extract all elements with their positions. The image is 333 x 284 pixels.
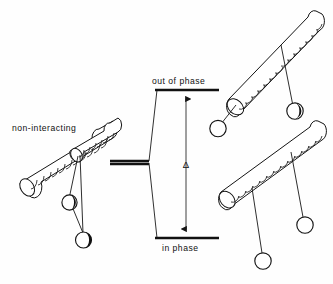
correlation-line-upper [149, 90, 157, 161]
label-non-interacting: non-interacting [12, 123, 76, 133]
sphere-icon [76, 232, 92, 248]
energy-splitting-diagram: non-interacting Δ out of phase in phase [0, 0, 333, 284]
sphere-icon [297, 217, 313, 233]
label-out-of-phase: out of phase [152, 76, 205, 86]
structure-out-of-phase [210, 11, 325, 137]
label-in-phase: in phase [162, 243, 199, 253]
structure-in-phase [216, 121, 326, 270]
energy-level-diagram: Δ out of phase in phase [110, 76, 219, 253]
figure-root: non-interacting Δ out of phase in phase [0, 0, 333, 284]
label-splitting-delta: Δ [183, 159, 190, 170]
helical-rod-icon [224, 11, 324, 118]
sphere-icon [210, 120, 226, 136]
correlation-line-lower [149, 163, 157, 238]
helical-rod-icon [216, 121, 326, 211]
sphere-icon [255, 253, 271, 269]
sphere-icon [62, 195, 77, 210]
sphere-icon [287, 103, 303, 119]
structure-non-interacting: non-interacting [12, 118, 122, 248]
